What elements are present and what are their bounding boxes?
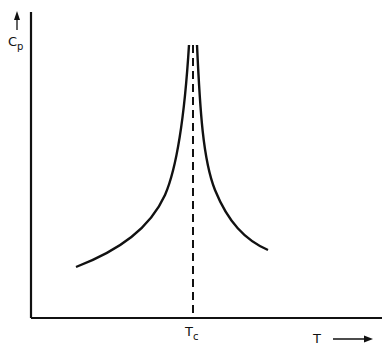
y-axis-label: Cp <box>8 35 23 48</box>
cp-arrow-icon <box>14 11 20 30</box>
y-axis-label-subscript: p <box>17 41 23 52</box>
x-axis-label: T <box>313 332 321 345</box>
cp-curve-below-tc <box>76 45 189 267</box>
tc-tick-label-subscript: c <box>193 331 199 342</box>
tc-tick-label: Tc <box>185 325 198 338</box>
y-axis-label-main: C <box>8 34 17 49</box>
diagram-canvas <box>0 0 389 353</box>
cp-curve-above-tc <box>197 45 268 250</box>
tc-tick-label-main: T <box>185 324 193 339</box>
t-arrow-icon <box>333 336 373 343</box>
